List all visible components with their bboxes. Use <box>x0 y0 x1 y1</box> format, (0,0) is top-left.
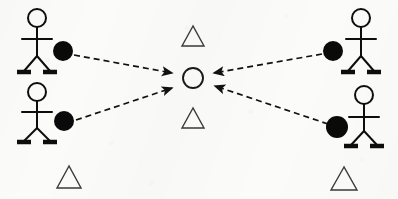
center-target-hitbox <box>181 66 205 90</box>
person-top-right-hitbox <box>320 6 386 76</box>
arrow-top-left-to-target <box>74 55 172 73</box>
person-bottom-left-hitbox <box>14 80 76 148</box>
triangle-group <box>57 26 357 190</box>
triangle-bottom-right-icon <box>331 167 357 190</box>
triangle-bottom-left-icon <box>57 166 81 188</box>
arrow-top-right-to-target <box>214 54 322 73</box>
arrow-bottom-right-to-target <box>215 86 328 124</box>
arrow-bottom-left-to-target <box>76 88 172 120</box>
diagram-canvas <box>0 0 398 199</box>
triangle-center-top-icon <box>182 26 204 46</box>
person-bottom-right-hitbox <box>322 83 388 153</box>
triangle-center-bottom-icon <box>182 108 204 128</box>
person-top-left-hitbox <box>14 6 76 76</box>
